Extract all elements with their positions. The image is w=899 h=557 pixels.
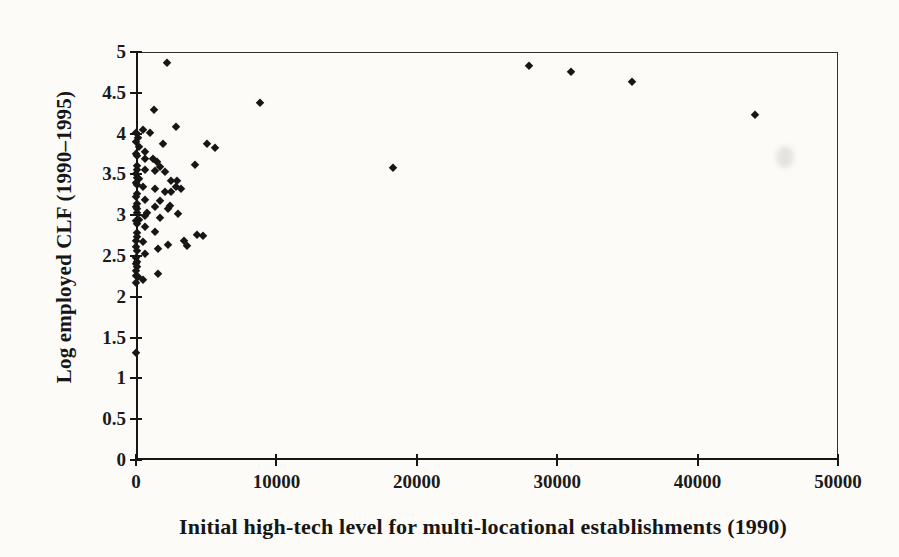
y-tick-label: 2 <box>117 286 127 308</box>
x-tick <box>556 454 558 466</box>
x-tick-label: 10000 <box>253 471 301 493</box>
y-tick-label: 1.5 <box>102 327 126 349</box>
x-tick <box>275 454 277 466</box>
x-tick-label: 30000 <box>533 471 581 493</box>
x-tick <box>697 454 699 466</box>
y-tick <box>130 337 142 339</box>
y-tick <box>130 92 142 94</box>
y-tick-label: 3.5 <box>102 163 126 185</box>
scan-artifact-smudge <box>776 146 794 168</box>
x-axis-title: Initial high-tech level for multi-locati… <box>179 514 787 540</box>
scatter-plot-figure: Log employed CLF (1990–1995) 01000020000… <box>0 0 899 557</box>
y-tick-label: 0.5 <box>102 408 126 430</box>
x-tick-label: 20000 <box>393 471 441 493</box>
y-tick <box>130 418 142 420</box>
y-tick <box>130 377 142 379</box>
x-tick-label: 50000 <box>814 471 862 493</box>
y-tick-label: 4 <box>117 123 127 145</box>
y-tick-label: 5 <box>117 41 127 63</box>
x-tick-label: 0 <box>131 471 141 493</box>
x-tick <box>837 454 839 466</box>
y-axis-title: Log employed CLF (1990–1995) <box>52 91 77 383</box>
plot-area <box>136 52 838 460</box>
y-tick-label: 3 <box>117 204 127 226</box>
y-tick-label: 2.5 <box>102 245 126 267</box>
y-tick-label: 4.5 <box>102 82 126 104</box>
y-tick-label: 0 <box>117 449 127 471</box>
y-tick-label: 1 <box>117 367 127 389</box>
x-tick-label: 40000 <box>674 471 722 493</box>
y-tick <box>130 459 142 461</box>
y-tick <box>130 296 142 298</box>
y-tick <box>130 51 142 53</box>
x-tick <box>416 454 418 466</box>
